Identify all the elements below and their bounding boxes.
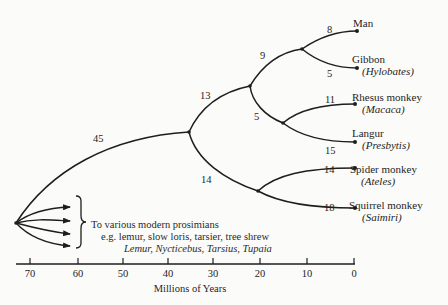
axis-tick-40: 40 xyxy=(163,268,174,279)
branch-anthropoid-oldworld xyxy=(189,86,250,132)
node-hominoid xyxy=(300,47,304,51)
taxon-langur-genus: (Presbytis) xyxy=(362,139,410,152)
tip-langur xyxy=(353,140,357,144)
prosimian-arrow-2 xyxy=(16,220,70,223)
brace xyxy=(76,196,86,248)
branch-langur xyxy=(283,123,355,142)
branch-label-rhesus: 11 xyxy=(325,94,335,105)
taxon-gibbon-genus: (Hylobates) xyxy=(362,65,414,78)
node-root xyxy=(14,221,18,225)
branch-label-squirrel: 18 xyxy=(324,202,335,213)
branch-label-9: 9 xyxy=(260,50,265,61)
branch-label-13: 13 xyxy=(200,90,211,101)
taxon-langur: Langur xyxy=(352,127,384,139)
branch-label-spider: 14 xyxy=(324,164,335,175)
phylogenetic-tree: 45 13 14 9 5 8 5 11 15 14 18 Man Gibbon … xyxy=(0,0,448,305)
branch-label-man: 8 xyxy=(327,24,332,35)
taxon-spider: Spider monkey xyxy=(350,163,417,175)
branch-root-anthropoid xyxy=(16,132,189,223)
branch-label-45: 45 xyxy=(93,133,104,144)
node-anthropoid xyxy=(187,130,191,134)
branch-gibbon xyxy=(302,49,357,68)
node-cercopithecoid xyxy=(281,121,285,125)
branch-anthropoid-newworld xyxy=(189,132,258,191)
taxon-rhesus: Rhesus monkey xyxy=(352,91,422,103)
time-axis: 70 60 50 40 30 20 10 0 Millions of Years xyxy=(16,258,357,294)
taxon-squirrel: Squirrel monkey xyxy=(349,199,423,211)
node-newworld xyxy=(256,189,260,193)
branch-label-gibbon: 5 xyxy=(327,68,332,79)
branch-rhesus xyxy=(283,104,355,123)
axis-tick-10: 10 xyxy=(302,268,313,279)
axis-tick-20: 20 xyxy=(255,268,266,279)
branch-label-14-newworld: 14 xyxy=(201,174,212,185)
tip-gibbon xyxy=(355,66,359,70)
prosimian-note-line1: To various modern prosimians xyxy=(91,219,219,230)
axis-tick-70: 70 xyxy=(25,268,36,279)
branch-squirrel xyxy=(258,191,355,208)
taxon-gibbon: Gibbon xyxy=(352,53,386,65)
prosimian-note-line3: Lemur, Nycticebus, Tarsius, Tupaia xyxy=(123,243,272,254)
branch-oldworld-hominoid xyxy=(250,49,302,86)
branch-spider xyxy=(258,168,355,191)
axis-tick-0: 0 xyxy=(351,268,356,279)
prosimian-arrow-3 xyxy=(16,223,70,234)
taxon-rhesus-genus: (Macaca) xyxy=(362,103,405,116)
taxon-man: Man xyxy=(353,17,374,29)
axis-tick-60: 60 xyxy=(73,268,84,279)
branch-label-5-cerco: 5 xyxy=(254,111,259,122)
taxon-spider-genus: (Ateles) xyxy=(361,175,396,188)
axis-tick-30: 30 xyxy=(208,268,219,279)
taxon-squirrel-genus: (Saimiri) xyxy=(362,211,402,224)
prosimian-arrow-4 xyxy=(16,223,70,246)
node-oldworld xyxy=(248,84,252,88)
tip-man xyxy=(355,29,359,33)
prosimian-note-line2: e.g. lemur, slow loris, tarsier, tree sh… xyxy=(101,231,269,242)
axis-tick-50: 50 xyxy=(118,268,129,279)
branch-label-langur: 15 xyxy=(325,145,336,156)
axis-label: Millions of Years xyxy=(154,283,227,294)
